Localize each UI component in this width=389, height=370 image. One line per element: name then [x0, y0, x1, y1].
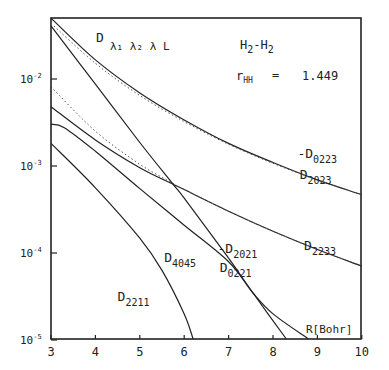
title-symbol: D: [96, 30, 104, 45]
parameter-label: rHH: [236, 69, 253, 85]
curve-annotations: -D0223D2023D2233D4045-D2021D0221D2211: [118, 146, 338, 308]
curve-label: D2233: [304, 238, 336, 257]
x-tick-label: 7: [225, 345, 232, 359]
x-tick-label: 3: [47, 345, 54, 359]
curve-line: [51, 23, 362, 194]
y-tick-labels: 10-210-310-410-5: [20, 72, 42, 347]
y-tick-label: 10-5: [20, 333, 42, 347]
curve-label: D4045: [164, 250, 196, 269]
x-tick-labels: 345678910: [47, 345, 369, 359]
system-label: H2-H2: [240, 38, 274, 55]
x-axis-label: R[Bohr]: [306, 323, 352, 336]
curve-label: D2023: [300, 167, 332, 186]
curve-label: -D0223: [297, 146, 337, 165]
x-tick-label: 5: [136, 345, 143, 359]
parameter-equals: =: [272, 68, 279, 82]
title-indices: λ₁ λ₂ λ L: [110, 40, 170, 53]
parameter-value: 1.449: [302, 69, 338, 83]
x-tick-label: 10: [355, 345, 369, 359]
curve-label: D0221: [220, 260, 252, 279]
y-tick-label: 10-4: [20, 246, 42, 260]
curve-label: D2211: [118, 289, 150, 308]
y-tick-label: 10-2: [20, 72, 42, 86]
x-tick-label: 9: [314, 345, 321, 359]
x-tick-label: 8: [269, 345, 276, 359]
curve-line: [51, 143, 193, 339]
y-tick-label: 10-3: [20, 159, 42, 173]
x-tick-label: 4: [92, 345, 99, 359]
chart: 345678910 10-210-310-410-5 D λ₁ λ₂ λ L H…: [0, 0, 389, 370]
axis-ticks: [51, 79, 362, 340]
curve-line: [51, 124, 309, 339]
x-tick-label: 6: [181, 345, 188, 359]
